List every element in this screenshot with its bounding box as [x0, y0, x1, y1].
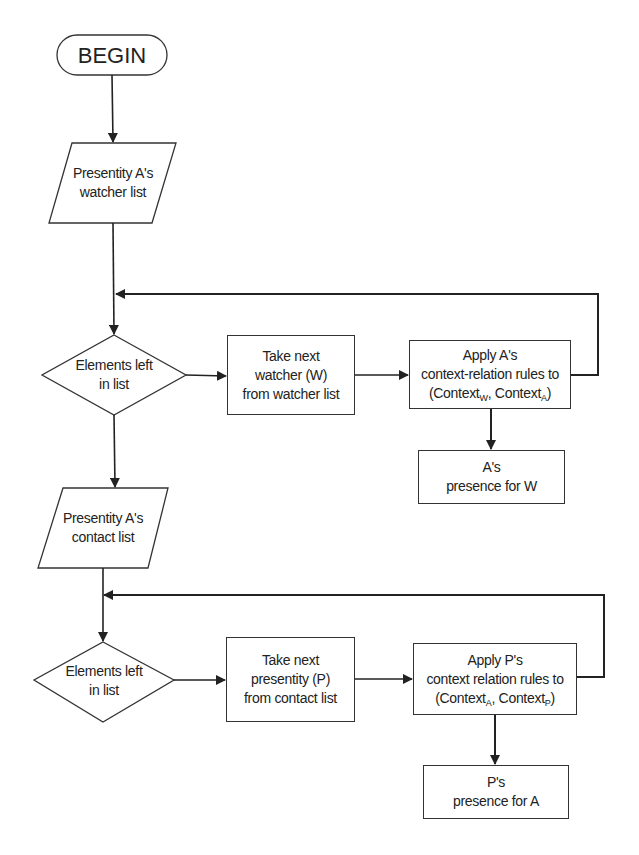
take-next-watcher-line1: Take next [262, 347, 319, 366]
a-presence-line1: A's [482, 458, 500, 477]
decision-1-line2: in list [99, 375, 129, 394]
p-presence-line1: P's [487, 773, 505, 792]
a-presence-line2: presence for W [446, 477, 537, 496]
decision-1-line1: Elements left [75, 356, 152, 375]
decision-2: Elements left in list [52, 658, 156, 704]
apply-p-line2: context relation rules to [426, 670, 563, 689]
contact-list-input: Presentity A's contact list [46, 495, 160, 561]
watcher-input-line2: watcher list [80, 183, 146, 202]
apply-a-line1: Apply A's [463, 346, 517, 365]
decision-2-line1: Elements left [65, 662, 142, 681]
apply-a-line3: (ContextW, ContextA) [429, 384, 551, 403]
begin-terminator: BEGIN [57, 35, 167, 75]
take-next-presentity-box: Take next presentity (P) from contact li… [226, 637, 355, 722]
take-next-presentity-line1: Take next [262, 651, 319, 670]
take-next-watcher-box: Take next watcher (W) from watcher list [227, 335, 355, 415]
a-presence-for-w-box: A's presence for W [418, 450, 565, 504]
watcher-input-line1: Presentity A's [73, 164, 153, 183]
p-presence-line2: presence for A [453, 792, 539, 811]
contact-input-line2: contact list [72, 528, 135, 547]
take-next-watcher-line3: from watcher list [243, 385, 340, 404]
decision-1: Elements left in list [62, 352, 166, 398]
apply-a-rules-box: Apply A's context-relation rules to (Con… [409, 340, 571, 409]
watcher-list-input: Presentity A's watcher list [55, 150, 171, 216]
apply-p-line1: Apply P's [467, 651, 522, 670]
decision-2-line2: in list [89, 681, 119, 700]
p-presence-for-a-box: P's presence for A [423, 765, 569, 819]
take-next-presentity-line2: presentity (P) [251, 670, 330, 689]
contact-input-line1: Presentity A's [63, 509, 143, 528]
apply-a-line2: context-relation rules to [421, 365, 559, 384]
apply-p-line3: (ContextA, ContextP) [435, 689, 555, 708]
begin-label: BEGIN [78, 46, 146, 65]
flowchart-connectors [0, 0, 639, 855]
take-next-presentity-line3: from contact list [244, 689, 337, 708]
take-next-watcher-line2: watcher (W) [255, 366, 327, 385]
apply-p-rules-box: Apply P's context relation rules to (Con… [413, 643, 577, 715]
